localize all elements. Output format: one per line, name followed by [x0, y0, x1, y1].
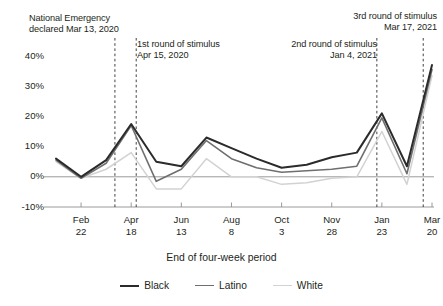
x-tick-label-feb-22: Feb 22 — [61, 214, 101, 237]
chart-legend: Black Latino White — [0, 280, 443, 291]
annotation-second-stimulus: 2nd round of stimulus Jan 4, 2021 — [291, 39, 377, 62]
legend-item-black: Black — [120, 280, 169, 291]
y-tick-label-minus10: -10% — [10, 201, 44, 212]
x-tick-label-jun-13: Jun 13 — [161, 214, 201, 237]
y-tick-label-40: 40% — [10, 50, 44, 61]
line-chart: 40% 30% 20% 10% 0% -10% Feb 22 Apr 18 Ju… — [0, 0, 443, 306]
x-tick-label-oct-3: Oct 3 — [262, 214, 302, 237]
legend-swatch-white-icon — [273, 285, 292, 286]
x-tick-label-aug-8: Aug 8 — [211, 214, 251, 237]
legend-item-white: White — [273, 280, 323, 291]
legend-item-latino: Latino — [195, 280, 247, 291]
x-axis-title: End of four-week period — [0, 252, 443, 263]
annotation-national-emergency: National Emergency declared Mar 13, 2020 — [29, 13, 119, 36]
y-tick-label-20: 20% — [10, 110, 44, 121]
legend-label-black: Black — [144, 280, 169, 291]
x-axis-line — [44, 203, 434, 208]
y-tick-label-10: 10% — [10, 140, 44, 151]
x-tick-label-apr-18: Apr 18 — [111, 214, 151, 237]
annotation-first-stimulus: 1st round of stimulus Apr 15, 2020 — [137, 39, 220, 62]
legend-label-latino: Latino — [219, 280, 247, 291]
y-tick-label-30: 30% — [10, 80, 44, 91]
legend-swatch-black-icon — [120, 285, 139, 287]
legend-label-white: White — [297, 280, 323, 291]
x-tick-label-jan-23: Jan 23 — [362, 214, 402, 237]
data-series-lines — [56, 65, 432, 189]
y-tick-label-0: 0% — [10, 170, 44, 181]
legend-swatch-latino-icon — [195, 285, 214, 286]
annotation-third-stimulus: 3rd round of stimulus Mar 17, 2021 — [353, 11, 437, 34]
x-tick-label-nov-28: Nov 28 — [312, 214, 352, 237]
x-tick-label-mar-20: Mar 20 — [412, 214, 443, 237]
